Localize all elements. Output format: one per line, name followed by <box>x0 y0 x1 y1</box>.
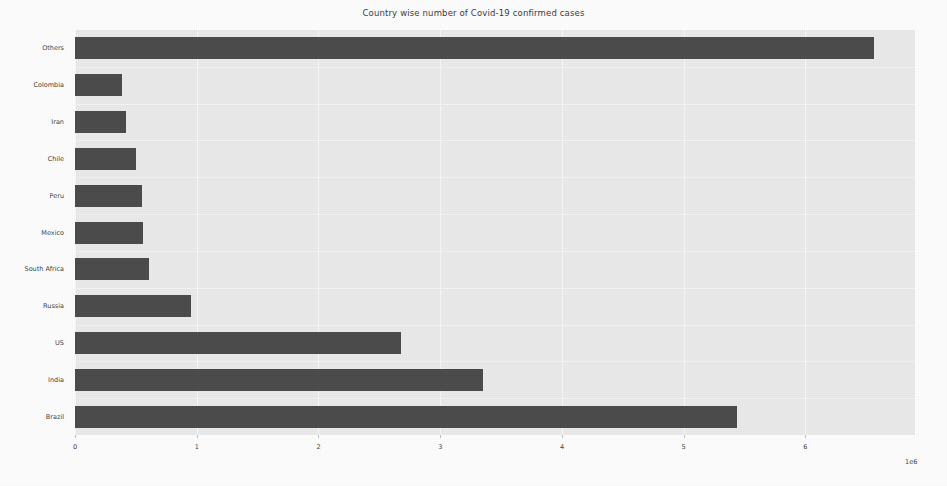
bar <box>75 148 136 170</box>
bar <box>75 185 142 207</box>
y-tick-label: Mexico <box>41 229 64 237</box>
x-tick-mark <box>684 435 685 438</box>
x-tick-label: 2 <box>316 443 320 451</box>
x-gridline <box>684 30 685 435</box>
x-tick-mark <box>75 435 76 438</box>
bar <box>75 222 143 244</box>
bar <box>75 295 191 317</box>
x-tick-mark <box>562 435 563 438</box>
x-tick-mark <box>440 435 441 438</box>
y-gridline <box>75 140 915 141</box>
bar <box>75 37 874 59</box>
chart-title: Country wise number of Covid-19 confirme… <box>0 8 947 18</box>
y-tick-label: Others <box>42 44 64 52</box>
y-tick-label: Colombia <box>33 81 64 89</box>
bar <box>75 406 737 428</box>
x-tick-mark <box>197 435 198 438</box>
bar <box>75 74 122 96</box>
y-gridline <box>75 361 915 362</box>
x-axis-tick-labels: 0123456 <box>0 435 947 465</box>
plot-area <box>75 30 915 435</box>
bar <box>75 111 126 133</box>
y-tick-label: US <box>55 339 64 347</box>
y-tick-label: Russia <box>43 302 64 310</box>
x-tick-label: 0 <box>73 443 77 451</box>
y-gridline <box>75 251 915 252</box>
x-gridline <box>805 30 806 435</box>
x-tick-label: 6 <box>803 443 807 451</box>
bar <box>75 369 483 391</box>
y-tick-label: Iran <box>51 118 64 126</box>
y-tick-label: Peru <box>50 192 64 200</box>
y-tick-label: South Africa <box>25 265 65 273</box>
x-tick-label: 5 <box>682 443 686 451</box>
x-tick-label: 4 <box>560 443 564 451</box>
y-tick-label: India <box>48 376 64 384</box>
chart-figure: Country wise number of Covid-19 confirme… <box>0 0 947 486</box>
x-gridline <box>562 30 563 435</box>
y-gridline <box>75 67 915 68</box>
x-axis-exponent-label: 1e6 <box>905 458 917 466</box>
bar <box>75 332 401 354</box>
y-tick-label: Brazil <box>46 413 64 421</box>
y-axis-tick-labels: OthersColombiaIranChilePeruMexicoSouth A… <box>0 30 70 435</box>
bar <box>75 258 149 280</box>
y-gridline <box>75 104 915 105</box>
y-tick-label: Chile <box>48 155 64 163</box>
x-tick-label: 1 <box>195 443 199 451</box>
y-gridline <box>75 177 915 178</box>
x-tick-mark <box>318 435 319 438</box>
y-gridline <box>75 325 915 326</box>
y-gridline <box>75 398 915 399</box>
y-gridline <box>75 214 915 215</box>
x-tick-label: 3 <box>438 443 442 451</box>
y-gridline <box>75 288 915 289</box>
x-tick-mark <box>805 435 806 438</box>
